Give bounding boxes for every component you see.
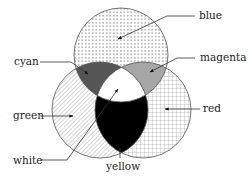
label-magenta: magenta bbox=[200, 51, 246, 63]
label-blue: blue bbox=[199, 9, 222, 21]
label-yellow: yellow bbox=[105, 160, 140, 172]
label-white: white bbox=[13, 154, 43, 166]
color-venn-diagram: blue cyan magenta green red white yellow bbox=[0, 0, 249, 187]
label-red: red bbox=[203, 102, 221, 114]
label-green: green bbox=[13, 109, 44, 121]
label-cyan: cyan bbox=[14, 55, 39, 67]
